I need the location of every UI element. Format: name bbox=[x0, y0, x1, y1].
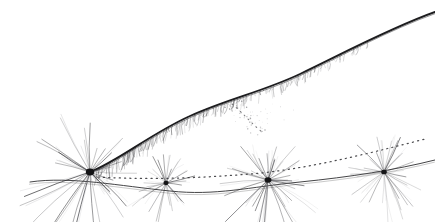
spray-dot bbox=[241, 100, 242, 101]
spray-dot bbox=[267, 113, 268, 114]
spray-dot bbox=[236, 105, 237, 106]
spray-dot bbox=[244, 117, 245, 118]
spray-dot bbox=[239, 117, 240, 118]
spray-dot bbox=[267, 123, 268, 124]
spray-dot bbox=[284, 119, 285, 120]
spray-dot bbox=[250, 132, 251, 133]
spray-dot bbox=[250, 118, 251, 119]
spray-dot bbox=[262, 122, 263, 123]
spray-dot bbox=[293, 110, 294, 111]
spray-dot bbox=[257, 134, 258, 135]
spray-dot bbox=[267, 118, 268, 119]
seed-head-core bbox=[86, 169, 94, 176]
spray-dot bbox=[265, 109, 266, 110]
spray-dot bbox=[255, 126, 256, 127]
spray-dot bbox=[224, 107, 225, 108]
spray-dot bbox=[270, 112, 271, 113]
spray-dot bbox=[228, 105, 229, 106]
spray-dot bbox=[247, 114, 248, 115]
seed-head-core bbox=[265, 177, 272, 183]
seed-head-core bbox=[381, 170, 387, 175]
spray-dot bbox=[250, 117, 251, 118]
spray-dot bbox=[247, 128, 248, 129]
spray-dot bbox=[250, 112, 251, 113]
spray-dot bbox=[261, 128, 262, 129]
spray-dot bbox=[231, 102, 232, 103]
spray-dot bbox=[251, 124, 252, 125]
spray-dot bbox=[259, 120, 260, 121]
spray-dot bbox=[253, 115, 254, 116]
spray-dot bbox=[239, 113, 240, 114]
spray-dot bbox=[262, 128, 263, 129]
spray-dot bbox=[257, 115, 258, 116]
spray-dot bbox=[255, 122, 256, 123]
spray-dot bbox=[260, 127, 261, 128]
ink-drawing bbox=[0, 0, 435, 222]
spray-dot bbox=[261, 131, 262, 132]
seed-head-core bbox=[163, 181, 168, 185]
spray-dot bbox=[224, 104, 225, 105]
spray-dot bbox=[235, 121, 236, 122]
spray-dot bbox=[264, 129, 266, 131]
spray-dot bbox=[231, 111, 232, 112]
spray-dot bbox=[260, 111, 261, 112]
spray-dot bbox=[280, 106, 281, 107]
spray-dot bbox=[235, 110, 236, 111]
spray-dot bbox=[251, 122, 252, 123]
spray-dot bbox=[246, 126, 247, 127]
spray-dot bbox=[237, 107, 238, 108]
spray-dot bbox=[234, 115, 235, 116]
spray-dot bbox=[249, 121, 250, 122]
spray-dot bbox=[239, 110, 240, 111]
spray-dot bbox=[272, 104, 273, 105]
artwork-canvas bbox=[0, 0, 435, 222]
spray-dot bbox=[229, 108, 230, 109]
spray-dot bbox=[250, 115, 251, 116]
spray-dot bbox=[240, 105, 241, 106]
spray-dot bbox=[231, 106, 232, 107]
spray-dot bbox=[261, 132, 262, 133]
spray-dot bbox=[246, 107, 247, 108]
spray-dot bbox=[241, 112, 242, 113]
spray-dot bbox=[246, 116, 247, 117]
spray-dot bbox=[252, 112, 253, 113]
